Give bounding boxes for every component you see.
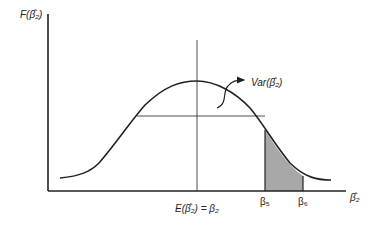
tick-label-beta6: β₆	[298, 196, 308, 207]
variance-arrow	[217, 80, 244, 108]
x-axis-label: β̂₂	[349, 192, 360, 203]
variance-label: Var(β̂₂)	[251, 77, 282, 88]
shaded-tail-area	[265, 130, 303, 191]
y-axis-label: F(β̂₂)	[20, 9, 42, 20]
sampling-distribution-diagram: F(β̂₂) Var(β̂₂) β̂₂ E(β̂₂) = β₂ β₅ β₆	[0, 0, 379, 226]
tick-label-beta5: β₅	[260, 196, 270, 207]
mean-label: E(β̂₂) = β₂	[175, 203, 219, 214]
